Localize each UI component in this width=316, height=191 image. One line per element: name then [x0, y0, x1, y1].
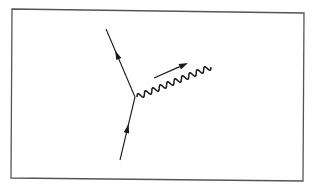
outgoing-fermion-line — [106, 29, 135, 97]
momentum-arrow-head-icon — [179, 63, 188, 69]
diagram-frame — [11, 9, 304, 181]
photon-wavy-line — [137, 67, 211, 97]
momentum-arrow-shaft — [154, 67, 180, 78]
incoming-fermion-arrow-icon — [124, 124, 129, 133]
feynman-diagram — [0, 0, 316, 191]
outgoing-fermion-arrow-icon — [115, 51, 121, 60]
